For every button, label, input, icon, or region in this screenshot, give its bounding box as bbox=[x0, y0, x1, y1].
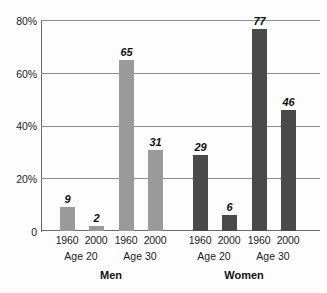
x-year-men-age20-1960: 1960 bbox=[56, 234, 79, 246]
x-age-women-30: Age 30 bbox=[256, 250, 289, 262]
x-group-women: Women bbox=[224, 269, 264, 281]
bar-value-label: 29 bbox=[194, 142, 206, 153]
y-tick-20: 20% bbox=[1, 173, 37, 185]
bar-value-label: 46 bbox=[282, 97, 294, 108]
gridline-40 bbox=[41, 126, 320, 127]
bar-value-label: 77 bbox=[253, 16, 265, 27]
bar-men-age20-1960: 9 bbox=[60, 207, 75, 231]
bar-fill bbox=[60, 207, 75, 231]
gridline-20 bbox=[41, 178, 320, 179]
bar-value-label: 31 bbox=[149, 137, 161, 148]
bar-fill bbox=[148, 150, 163, 231]
bar-fill bbox=[222, 215, 237, 231]
bar-value-label: 6 bbox=[226, 202, 232, 213]
bar-women-age20-1960: 29 bbox=[193, 155, 208, 231]
plot-area: 9 2 65 31 29 6 77 46 bbox=[41, 20, 320, 231]
bar-fill bbox=[252, 29, 267, 231]
bar-women-age20-2000: 6 bbox=[222, 215, 237, 231]
x-age-men-30: Age 30 bbox=[123, 250, 156, 262]
x-year-men-age20-2000: 2000 bbox=[85, 234, 108, 246]
bar-chart: 80% 60% 40% 20% 0 9 2 65 31 bbox=[0, 0, 327, 293]
x-year-women-age20-1960: 1960 bbox=[189, 234, 212, 246]
bar-women-age30-1960: 77 bbox=[252, 29, 267, 231]
bar-men-age30-2000: 31 bbox=[148, 150, 163, 231]
bar-value-label: 65 bbox=[120, 47, 132, 58]
x-age-women-20: Age 20 bbox=[197, 250, 230, 262]
bar-value-label: 9 bbox=[64, 194, 70, 205]
bar-men-age20-2000: 2 bbox=[89, 226, 104, 231]
x-age-men-20: Age 20 bbox=[64, 250, 97, 262]
gridline-80 bbox=[41, 20, 320, 21]
x-year-men-age30-2000: 2000 bbox=[144, 234, 167, 246]
x-year-men-age30-1960: 1960 bbox=[115, 234, 138, 246]
x-year-women-age30-1960: 1960 bbox=[248, 234, 271, 246]
bar-men-age30-1960: 65 bbox=[119, 60, 134, 231]
gridline-60 bbox=[41, 73, 320, 74]
bar-women-age30-2000: 46 bbox=[281, 110, 296, 231]
bar-fill bbox=[119, 60, 134, 231]
gridline-baseline bbox=[41, 230, 320, 231]
x-axis-labels: 1960 2000 1960 2000 1960 2000 1960 2000 … bbox=[0, 234, 327, 293]
bar-fill bbox=[193, 155, 208, 231]
y-tick-40: 40% bbox=[1, 120, 37, 132]
bar-fill bbox=[281, 110, 296, 231]
x-year-women-age30-2000: 2000 bbox=[277, 234, 300, 246]
bar-fill bbox=[89, 226, 104, 231]
x-group-men: Men bbox=[100, 269, 122, 281]
y-tick-80: 80% bbox=[1, 15, 37, 27]
bar-value-label: 2 bbox=[93, 213, 99, 224]
y-tick-60: 60% bbox=[1, 68, 37, 80]
x-year-women-age20-2000: 2000 bbox=[218, 234, 241, 246]
